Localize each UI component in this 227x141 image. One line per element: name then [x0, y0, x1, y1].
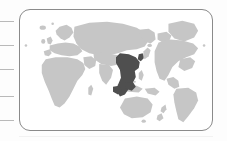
new-zealand-south-shape [157, 113, 164, 121]
axis-tick-4 [0, 96, 14, 97]
japan-shape [143, 47, 151, 59]
island-dot-2 [203, 44, 206, 47]
australia-shape [120, 97, 153, 119]
south-america-shape [173, 88, 198, 122]
africa-shape [42, 57, 86, 107]
iceland-shape [40, 26, 46, 30]
world-map-svg [20, 10, 212, 130]
india-shape [99, 64, 113, 85]
korea-highlight[interactable] [138, 53, 144, 61]
hokkaido-shape [147, 44, 152, 47]
axis-tick-3 [0, 69, 14, 70]
philippines-shape [139, 70, 144, 81]
island-dot-3 [25, 44, 28, 47]
axis-tick-group [0, 0, 16, 141]
screenshot-root [0, 0, 227, 141]
axis-tick-5 [0, 120, 14, 121]
scandinavia-shape [56, 25, 74, 41]
british-isles-shape [47, 37, 53, 45]
greenland-shape [168, 21, 198, 42]
usa-east-shape [178, 57, 195, 71]
axis-tick-2 [0, 45, 14, 46]
madagascar-shape [88, 85, 93, 96]
island-dot-5 [134, 81, 136, 83]
northern-asia-shape [73, 22, 148, 55]
world-map-canvas [20, 10, 212, 130]
card-baseline-shadow [19, 136, 213, 137]
landmass-group [25, 21, 206, 123]
new-zealand-shape [161, 104, 167, 113]
axis-tick-1 [0, 21, 14, 22]
ireland-shape [41, 39, 45, 44]
island-dot-1 [51, 22, 54, 25]
central-america-shape [166, 77, 179, 89]
new-guinea-shape [145, 88, 160, 96]
tasmania-shape [142, 119, 146, 122]
world-map-card[interactable] [19, 9, 213, 131]
